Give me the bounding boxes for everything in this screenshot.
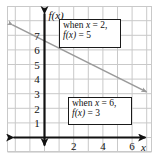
y-tick-label-3: 3 xyxy=(34,88,40,100)
annotation-2-line-2: f(x) = 3 xyxy=(72,109,128,119)
annotation-2-function: f(x) xyxy=(72,108,85,118)
annotation-1-prefix: when xyxy=(63,20,86,30)
y-tick-label-5: 5 xyxy=(34,59,40,71)
y-tick-label-1: 1 xyxy=(34,117,40,129)
annotation-2-value: = 6, xyxy=(99,98,116,108)
y-tick-label-7: 7 xyxy=(34,30,40,42)
annotation-box-x6: when x = 6, f(x) = 3 xyxy=(68,97,132,125)
x-tick-label-6: 6 xyxy=(129,140,135,152)
graph-figure: 1 2 3 4 5 6 7 2 4 6 f(x) x when x = 2, f… xyxy=(0,0,159,166)
x-tick-label-4: 4 xyxy=(100,140,106,152)
annotation-1-line-2: f(x) = 5 xyxy=(63,31,117,41)
annotation-1-value: = 2, xyxy=(90,20,107,30)
y-tick-label-6: 6 xyxy=(34,44,40,56)
y-tick-label-4: 4 xyxy=(34,73,40,85)
annotation-box-x2: when x = 2, f(x) = 5 xyxy=(59,19,121,48)
y-tick-label-2: 2 xyxy=(34,103,40,115)
annotation-1-result: = 5 xyxy=(76,30,91,40)
x-axis-label: x xyxy=(140,141,146,153)
annotation-2-result: = 3 xyxy=(85,108,100,118)
y-tick-labels: 1 2 3 4 5 6 7 xyxy=(34,30,40,130)
x-tick-label-2: 2 xyxy=(71,140,77,152)
annotation-2-prefix: when xyxy=(72,98,95,108)
annotation-1-function: f(x) xyxy=(63,30,76,40)
